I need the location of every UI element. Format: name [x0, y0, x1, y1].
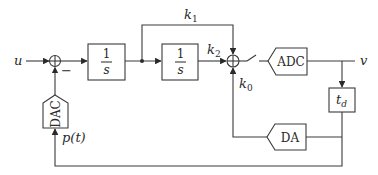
- gain-k2-label: k2: [207, 42, 221, 59]
- da-label: DA: [281, 131, 300, 145]
- gain-k0-label: k0: [239, 76, 253, 93]
- adc-label: ADC: [276, 55, 304, 69]
- summing-junction-2: [227, 55, 239, 67]
- integrator1-denominator: s: [103, 63, 109, 77]
- block-diagram: u − 1 s 1 s k1 k2 k0 ADC v td DA DAC p(t…: [0, 0, 378, 175]
- gain-k1-label: k1: [184, 7, 198, 24]
- input-u-label: u: [14, 53, 22, 68]
- integrator2-denominator: s: [177, 63, 183, 77]
- summing-junction-1: [50, 56, 61, 67]
- output-v-label: v: [360, 53, 368, 68]
- integrator2-numerator: 1: [177, 47, 185, 61]
- pulse-p-label: p(t): [62, 130, 86, 145]
- dac-label: DAC: [49, 100, 63, 127]
- integrator1-numerator: 1: [103, 47, 111, 61]
- sampling-switch: [239, 55, 268, 61]
- minus-sign-label: −: [61, 63, 72, 78]
